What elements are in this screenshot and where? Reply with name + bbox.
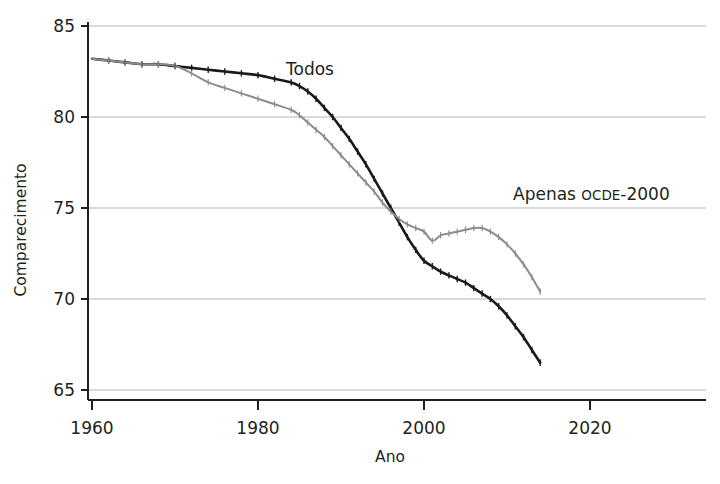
- x-tick-label: 1960: [70, 418, 113, 438]
- x-tick-label: 2020: [568, 418, 611, 438]
- series-label-todos: Todos: [285, 59, 334, 79]
- y-tick-label: 70: [53, 289, 75, 309]
- x-tick-label: 1980: [236, 418, 279, 438]
- y-tick-label: 80: [53, 107, 75, 127]
- y-tick-label: 75: [53, 198, 75, 218]
- chart-background: [0, 0, 720, 484]
- x-tick-label: 2000: [402, 418, 445, 438]
- chart-figure: 6570758085 1960198020002020 Comparecimen…: [0, 0, 720, 484]
- series-label-apenas-ocde-2000: Apenas OCDE-2000: [513, 184, 670, 204]
- y-tick-label: 85: [53, 16, 75, 36]
- y-axis-title: Comparecimento: [12, 163, 30, 296]
- line-chart: 6570758085 1960198020002020 Comparecimen…: [0, 0, 720, 484]
- y-tick-label: 65: [53, 380, 75, 400]
- x-axis-title: Ano: [375, 448, 405, 466]
